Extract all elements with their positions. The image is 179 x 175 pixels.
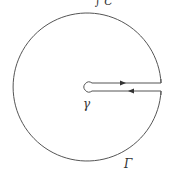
arrow-right-icon [120,81,126,86]
label-outer-gamma: Γ [123,157,133,171]
arrow-left-icon [128,89,134,94]
inner-arc-gamma [84,82,92,92]
label-inner-gamma: γ [83,97,91,111]
label-top-partial: ∫ C [95,0,113,8]
keyhole-contour-diagram: ∫ C γ Γ [0,0,179,175]
outer-arc-gamma [13,13,161,161]
